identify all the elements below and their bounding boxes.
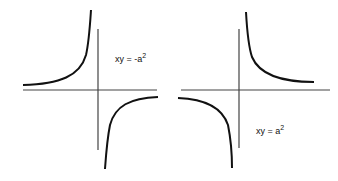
hyperbola-diagram: xy = -a2 xy = a2 <box>0 0 338 181</box>
left-upper-branch <box>23 10 91 85</box>
right-equation-label: xy = a2 <box>256 124 284 136</box>
right-panel: xy = a2 <box>178 12 330 168</box>
left-equation-label: xy = -a2 <box>115 52 146 64</box>
left-lower-branch <box>105 97 158 169</box>
right-lower-branch <box>178 98 232 168</box>
left-panel: xy = -a2 <box>23 10 158 169</box>
right-upper-branch <box>246 12 314 82</box>
